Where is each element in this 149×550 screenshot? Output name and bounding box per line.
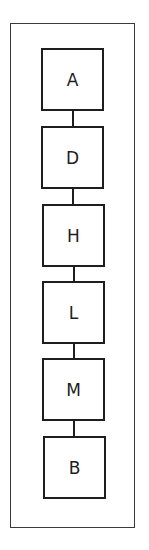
node-m: M — [42, 358, 105, 421]
node-label: H — [67, 226, 80, 246]
edge-m-b — [73, 421, 75, 436]
node-label: D — [66, 148, 79, 168]
edge-d-h — [72, 189, 74, 204]
node-h: H — [42, 204, 105, 267]
node-a: A — [41, 48, 104, 111]
node-l: L — [42, 281, 105, 344]
node-label: M — [66, 380, 81, 400]
node-b: B — [43, 436, 106, 499]
edge-l-m — [73, 344, 75, 358]
node-label: A — [67, 70, 79, 90]
node-d: D — [41, 126, 104, 189]
edge-h-l — [73, 267, 75, 281]
node-label: L — [69, 303, 78, 323]
node-label: B — [69, 458, 81, 478]
edge-a-d — [72, 111, 74, 126]
